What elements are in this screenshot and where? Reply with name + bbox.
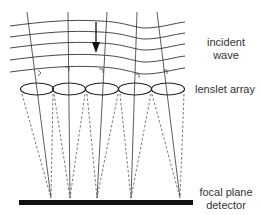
focal-plane-detector [19, 200, 193, 205]
wavefront-normal-rays [27, 12, 180, 198]
focal-plane-label-line2: detector [194, 199, 258, 212]
lenslet-array-label: lenslet array [191, 83, 259, 96]
right-angle-markers [38, 67, 167, 78]
lenslet-3 [86, 83, 119, 95]
focal-plane-label-line1: focal plane [194, 186, 258, 199]
diagram-canvas [0, 0, 260, 215]
wavefront-2 [10, 31, 185, 39]
focusing-cones [22, 94, 184, 198]
lenslet-5 [152, 83, 185, 95]
incident-wave-label-line2: wave [196, 49, 256, 62]
propagation-arrow-icon [92, 22, 100, 53]
normal-ray-3 [97, 12, 107, 198]
wavefront-5 [10, 66, 185, 74]
normal-ray-1 [27, 12, 51, 198]
normal-ray-2 [68, 12, 70, 198]
incident-wave-label-line1: incident [196, 36, 256, 49]
lenslet-array-label-text: lenslet array [191, 83, 259, 96]
normal-ray-5 [157, 12, 180, 198]
incident-wave-label: incident wave [196, 36, 256, 62]
wavefront-4 [10, 54, 185, 62]
focal-plane-label: focal plane detector [194, 186, 258, 212]
